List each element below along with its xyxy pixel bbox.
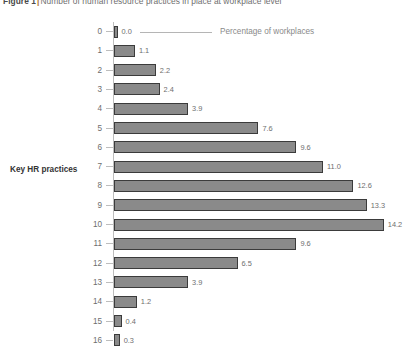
axis-tick (106, 128, 113, 129)
bar (114, 103, 188, 115)
category-label: 5 (84, 119, 102, 138)
bar-value-label: 7.6 (262, 119, 272, 138)
bar-row: 126.5 (0, 254, 419, 273)
bar-row: 119.6 (0, 234, 419, 253)
bar (114, 141, 296, 153)
bar (114, 199, 367, 211)
axis-tick (106, 108, 113, 109)
bar (114, 45, 135, 57)
category-label: 6 (84, 138, 102, 157)
legend-label: Percentage of workplaces (220, 22, 314, 41)
axis-tick (106, 224, 113, 225)
category-label: 13 (84, 273, 102, 292)
bar (114, 64, 156, 76)
bar (114, 238, 296, 250)
category-label: 0 (84, 22, 102, 41)
bar-value-label: 9.6 (300, 138, 310, 157)
bar (114, 219, 384, 231)
bar-row: 69.6 (0, 138, 419, 157)
bar (114, 26, 118, 38)
axis-tick (106, 301, 113, 302)
axis-tick (106, 70, 113, 71)
bar-chart-plot-area: 00.011.122.232.443.957.669.6711.0812.691… (0, 0, 419, 349)
category-label: 4 (84, 99, 102, 118)
bar (114, 161, 323, 173)
bar-row: 711.0 (0, 157, 419, 176)
category-label: 3 (84, 80, 102, 99)
category-label: 8 (84, 176, 102, 195)
bar-row: 22.2 (0, 61, 419, 80)
bar-row: 141.2 (0, 292, 419, 311)
category-label: 10 (84, 215, 102, 234)
bar-row: 11.1 (0, 41, 419, 60)
category-label: 12 (84, 254, 102, 273)
bar-value-label: 0.3 (124, 331, 134, 349)
category-label: 7 (84, 157, 102, 176)
bar-row: 913.3 (0, 196, 419, 215)
bar-row: 150.4 (0, 312, 419, 331)
axis-tick (106, 205, 113, 206)
axis-tick (106, 166, 113, 167)
bar-value-label: 3.9 (192, 99, 202, 118)
bar-value-label: 11.0 (327, 157, 341, 176)
legend-leader-line (140, 32, 213, 33)
category-label: 1 (84, 41, 102, 60)
category-label: 15 (84, 312, 102, 331)
bar-row: 57.6 (0, 119, 419, 138)
bar (114, 276, 188, 288)
bar-row: 43.9 (0, 99, 419, 118)
axis-tick (106, 321, 113, 322)
bar-row: 32.4 (0, 80, 419, 99)
bar-row: 160.3 (0, 331, 419, 349)
bar-value-label: 12.6 (357, 176, 371, 195)
bar (114, 334, 120, 346)
bar-value-label: 1.1 (139, 41, 149, 60)
bar (114, 83, 160, 95)
bar-value-label: 3.9 (192, 273, 202, 292)
axis-tick (106, 31, 113, 32)
bar (114, 257, 238, 269)
bar-value-label: 6.5 (242, 254, 252, 273)
category-label: 9 (84, 196, 102, 215)
bar (114, 122, 258, 134)
axis-tick (106, 50, 113, 51)
bar-row: 133.9 (0, 273, 419, 292)
bar-value-label: 2.4 (164, 80, 174, 99)
axis-tick (106, 340, 113, 341)
bar-value-label: 1.2 (141, 292, 151, 311)
category-label: 2 (84, 61, 102, 80)
bar-value-label: 0.0 (122, 22, 132, 41)
bar-row: 1014.2 (0, 215, 419, 234)
axis-tick (106, 185, 113, 186)
bar-value-label: 9.6 (300, 234, 310, 253)
axis-tick (106, 282, 113, 283)
bar-value-label: 13.3 (371, 196, 385, 215)
bar-value-label: 0.4 (126, 312, 136, 331)
category-label: 11 (84, 234, 102, 253)
axis-tick (106, 243, 113, 244)
axis-tick (106, 147, 113, 148)
axis-tick (106, 263, 113, 264)
bar-value-label: 2.2 (160, 61, 170, 80)
bar-row: 812.6 (0, 176, 419, 195)
bar (114, 296, 137, 308)
bar-value-label: 14.2 (388, 215, 402, 234)
category-label: 14 (84, 292, 102, 311)
axis-tick (106, 89, 113, 90)
bar (114, 315, 122, 327)
category-label: 16 (84, 331, 102, 349)
bar (114, 180, 353, 192)
